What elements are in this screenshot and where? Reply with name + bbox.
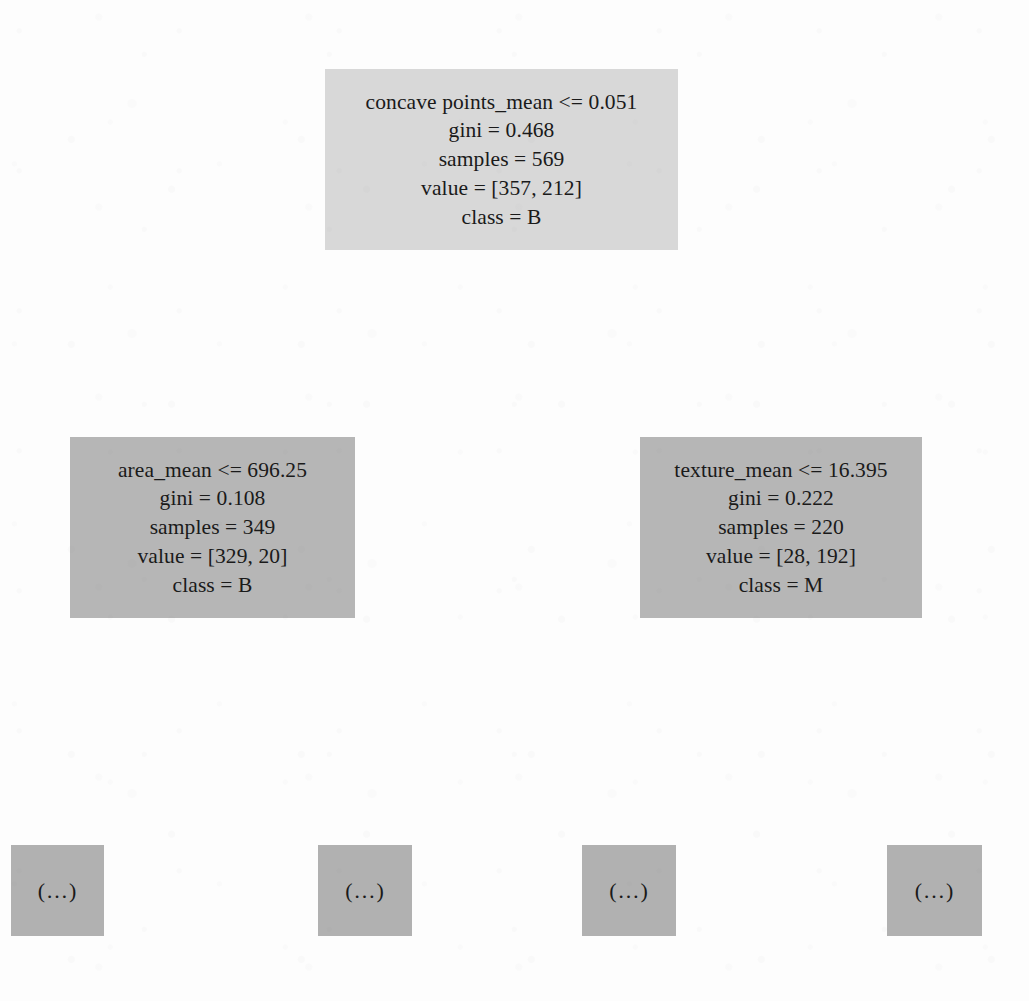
node-samples: samples = 220	[718, 513, 844, 542]
tree-node-leaf-4[interactable]: (…)	[887, 845, 982, 936]
node-ellipsis: (…)	[915, 876, 955, 905]
node-decision-rule: concave points_mean <= 0.051	[366, 88, 638, 117]
tree-node-right-child[interactable]: texture_mean <= 16.395 gini = 0.222 samp…	[640, 437, 922, 618]
node-gini: gini = 0.108	[160, 484, 266, 513]
tree-node-leaf-1[interactable]: (…)	[11, 845, 104, 936]
node-value: value = [329, 20]	[138, 542, 288, 571]
tree-node-root[interactable]: concave points_mean <= 0.051 gini = 0.46…	[325, 69, 678, 250]
node-gini: gini = 0.468	[449, 116, 555, 145]
node-samples: samples = 349	[150, 513, 276, 542]
node-value: value = [357, 212]	[421, 174, 582, 203]
tree-node-leaf-2[interactable]: (…)	[318, 845, 412, 936]
tree-node-left-child[interactable]: area_mean <= 696.25 gini = 0.108 samples…	[70, 437, 355, 618]
node-class: class = B	[173, 571, 253, 600]
node-samples: samples = 569	[439, 145, 565, 174]
node-ellipsis: (…)	[38, 876, 78, 905]
tree-node-leaf-3[interactable]: (…)	[582, 845, 676, 936]
node-decision-rule: texture_mean <= 16.395	[674, 456, 887, 485]
node-ellipsis: (…)	[609, 876, 649, 905]
node-decision-rule: area_mean <= 696.25	[118, 456, 307, 485]
node-class: class = B	[462, 203, 542, 232]
decision-tree-canvas: concave points_mean <= 0.051 gini = 0.46…	[0, 0, 1029, 1001]
node-class: class = M	[739, 571, 824, 600]
node-ellipsis: (…)	[345, 876, 385, 905]
node-value: value = [28, 192]	[706, 542, 856, 571]
node-gini: gini = 0.222	[728, 484, 834, 513]
